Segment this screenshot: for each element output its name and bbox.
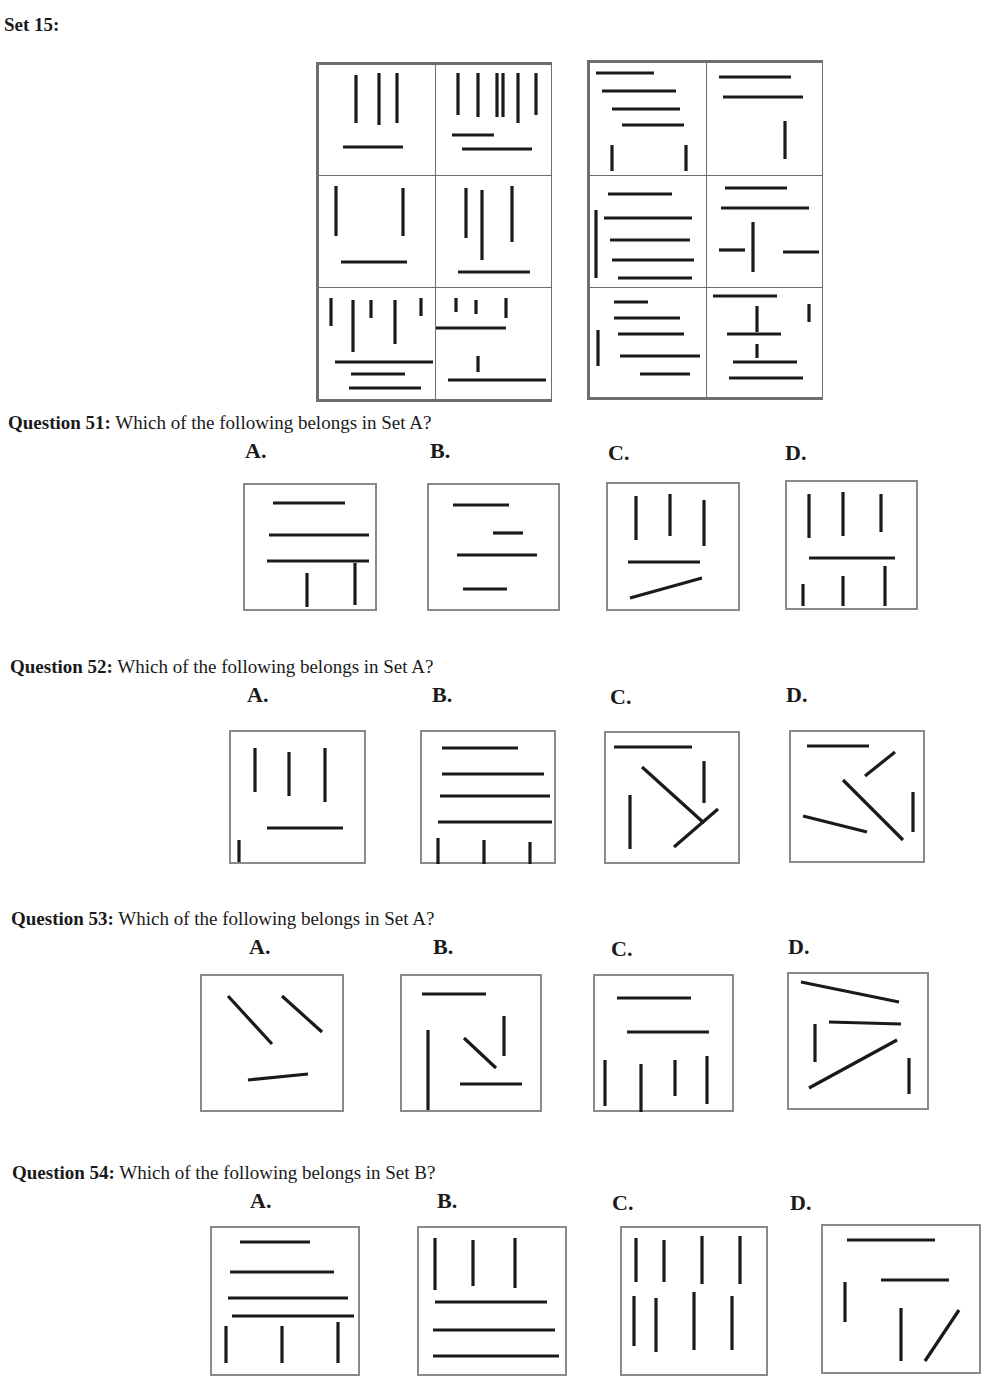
figure-lines bbox=[787, 482, 916, 608]
figure-lines bbox=[436, 65, 551, 175]
set-a-cell-4 bbox=[435, 175, 552, 288]
set-b-grid bbox=[587, 60, 823, 400]
q53-option-b-label: B. bbox=[433, 934, 453, 960]
q54-option-c-label: C. bbox=[612, 1190, 633, 1216]
line-segment bbox=[809, 1040, 897, 1088]
question-53-label: Question 53: bbox=[11, 908, 114, 929]
q52-option-d-figure[interactable] bbox=[789, 730, 925, 863]
set-b-cell-6 bbox=[706, 287, 823, 398]
q51-option-c-label: C. bbox=[608, 440, 629, 466]
question-54-prompt: Question 54: Which of the following belo… bbox=[12, 1162, 435, 1184]
figure-lines bbox=[707, 63, 822, 175]
q53-option-b-figure[interactable] bbox=[400, 974, 542, 1112]
line-segment bbox=[925, 1310, 959, 1361]
set-title: Set 15: bbox=[4, 14, 59, 36]
figure-lines bbox=[319, 288, 435, 399]
figure-lines bbox=[436, 176, 551, 287]
q51-option-a-figure[interactable] bbox=[243, 483, 377, 611]
figure-lines bbox=[429, 485, 558, 609]
q52-option-d-label: D. bbox=[786, 682, 807, 708]
figure-lines bbox=[590, 176, 706, 287]
line-segment bbox=[865, 752, 895, 776]
q53-option-a-figure[interactable] bbox=[200, 974, 344, 1112]
figure-lines bbox=[590, 288, 706, 397]
line-segment bbox=[228, 996, 272, 1044]
q51-option-d-figure[interactable] bbox=[785, 480, 918, 610]
set-a-cell-5 bbox=[318, 287, 436, 400]
figure-lines bbox=[823, 1226, 979, 1372]
figure-lines bbox=[707, 176, 822, 287]
figure-lines bbox=[595, 976, 732, 1110]
question-53-text: Which of the following belongs in Set A? bbox=[114, 908, 435, 929]
q51-option-c-figure[interactable] bbox=[606, 482, 740, 611]
question-51-prompt: Question 51: Which of the following belo… bbox=[8, 412, 431, 434]
line-segment bbox=[803, 816, 867, 832]
figure-lines bbox=[212, 1228, 358, 1374]
question-52-label: Question 52: bbox=[10, 656, 113, 677]
q52-option-c-label: C. bbox=[610, 684, 631, 710]
q54-option-b-figure[interactable] bbox=[417, 1226, 567, 1376]
line-segment bbox=[843, 780, 903, 840]
figure-lines bbox=[419, 1228, 565, 1374]
set-a-cell-2 bbox=[435, 64, 552, 176]
q53-option-d-figure[interactable] bbox=[787, 972, 929, 1110]
q54-option-b-label: B. bbox=[437, 1188, 457, 1214]
question-54-label: Question 54: bbox=[12, 1162, 115, 1183]
line-segment bbox=[801, 982, 899, 1002]
line-segment bbox=[642, 767, 704, 823]
line-segment bbox=[630, 578, 702, 598]
q51-option-a-label: A. bbox=[245, 438, 266, 464]
set-b-cell-5 bbox=[589, 287, 707, 398]
line-segment bbox=[464, 1038, 496, 1068]
set-b-cell-3 bbox=[589, 175, 707, 288]
q52-option-b-label: B. bbox=[432, 682, 452, 708]
q51-option-b-figure[interactable] bbox=[427, 483, 560, 611]
question-51-text: Which of the following belongs in Set A? bbox=[111, 412, 432, 433]
figure-lines bbox=[606, 733, 738, 862]
figure-lines bbox=[436, 288, 551, 399]
q52-option-a-figure[interactable] bbox=[229, 730, 366, 864]
question-54-text: Which of the following belongs in Set B? bbox=[115, 1162, 436, 1183]
figure-lines bbox=[231, 732, 364, 862]
q54-option-c-figure[interactable] bbox=[620, 1226, 768, 1376]
figure-lines bbox=[402, 976, 540, 1110]
figure-lines bbox=[245, 485, 375, 609]
set-b-cell-4 bbox=[706, 175, 823, 288]
q53-option-c-label: C. bbox=[611, 936, 632, 962]
q52-option-c-figure[interactable] bbox=[604, 731, 740, 864]
q54-option-d-label: D. bbox=[790, 1190, 811, 1216]
q54-option-d-figure[interactable] bbox=[821, 1224, 981, 1374]
q53-option-d-label: D. bbox=[788, 934, 809, 960]
question-51-label: Question 51: bbox=[8, 412, 111, 433]
figure-lines bbox=[789, 974, 927, 1108]
figure-lines bbox=[319, 176, 435, 287]
q51-option-d-label: D. bbox=[785, 440, 806, 466]
set-a-cell-1 bbox=[318, 64, 436, 176]
line-segment bbox=[248, 1074, 308, 1080]
q51-option-b-label: B. bbox=[430, 438, 450, 464]
figure-lines bbox=[319, 65, 435, 175]
set-a-cell-3 bbox=[318, 175, 436, 288]
figure-lines bbox=[590, 63, 706, 175]
figure-lines bbox=[622, 1228, 766, 1374]
figure-lines bbox=[791, 732, 923, 861]
q53-option-c-figure[interactable] bbox=[593, 974, 734, 1112]
question-53-prompt: Question 53: Which of the following belo… bbox=[11, 908, 434, 930]
q53-option-a-label: A. bbox=[249, 934, 270, 960]
set-b-cell-2 bbox=[706, 62, 823, 176]
question-52-prompt: Question 52: Which of the following belo… bbox=[10, 656, 433, 678]
q54-option-a-figure[interactable] bbox=[210, 1226, 360, 1376]
figure-lines bbox=[202, 976, 342, 1110]
question-52-text: Which of the following belongs in Set A? bbox=[113, 656, 434, 677]
q52-option-b-figure[interactable] bbox=[420, 730, 556, 864]
line-segment bbox=[829, 1022, 901, 1024]
line-segment bbox=[282, 996, 322, 1032]
set-a-cell-6 bbox=[435, 287, 552, 400]
set-a-grid bbox=[316, 62, 552, 402]
q52-option-a-label: A. bbox=[247, 682, 268, 708]
q54-option-a-label: A. bbox=[250, 1188, 271, 1214]
figure-lines bbox=[422, 732, 554, 862]
set-b-cell-1 bbox=[589, 62, 707, 176]
figure-lines bbox=[608, 484, 738, 609]
figure-lines bbox=[707, 288, 822, 397]
